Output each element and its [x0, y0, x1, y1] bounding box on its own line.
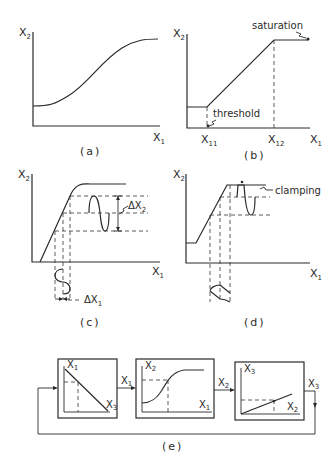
panel-b-x12-label: X12 [268, 133, 284, 148]
panel-e-block-3-y-label: X3 [244, 363, 255, 376]
panel-d-clamping-leader [260, 187, 273, 190]
panel-b-y-label: X2 [173, 27, 185, 42]
panel-c-delta-x2-arrow-top [116, 196, 120, 200]
panel-b-caption: (b) [244, 149, 266, 162]
panel-c-delta-x1-arrow-left [59, 297, 63, 301]
panel-d-caption: (d) [244, 316, 266, 329]
panel-c: ΔX2 ΔX1 X2 X1 (c) [18, 168, 164, 329]
panel-a-caption: (a) [80, 145, 101, 158]
panel-e-block-1-y-label: X1 [67, 359, 78, 372]
panel-b-threshold-dot [207, 125, 210, 128]
panel-b-saturation-leader [296, 32, 306, 38]
panel-a-x-label: X1 [153, 131, 165, 146]
panel-b-x-label: X1 [310, 133, 322, 148]
panel-e-feedback-loop [38, 388, 315, 434]
panel-b: saturation threshold X2 X11 X12 X1 (b) [173, 20, 322, 162]
panel-e: X1 X3 X2 X1 X3 X2 X1 X2 X3 (e) [38, 359, 319, 453]
panel-e-signal-1-label: X1 [121, 375, 132, 388]
panel-d-input-wave [210, 285, 230, 302]
panel-e-block-1-axes [64, 366, 110, 412]
panel-e-arrowhead-2-3 [230, 388, 235, 392]
panel-c-delta-x1-label: ΔX1 [84, 294, 102, 308]
panel-c-x-label: X1 [152, 265, 164, 280]
panel-e-feedback-arrowhead-in [53, 386, 58, 390]
panel-e-block-2-y-label: X2 [145, 360, 156, 373]
panel-d-response-curve [186, 185, 266, 243]
panel-c-delta-x1-arrow-right [63, 297, 67, 301]
panel-a-axes [33, 32, 160, 126]
panel-b-piecewise-curve [187, 40, 308, 107]
panel-c-output-wave [89, 196, 109, 231]
panel-c-delta-x2-arrow-bottom [116, 227, 120, 231]
panel-e-block-3-curve [241, 394, 292, 414]
panel-c-input-wave [55, 269, 70, 294]
panel-e-block-3-x-label: X2 [287, 401, 298, 414]
panel-e-signal-3-label: X3 [308, 378, 319, 391]
panel-e-feedback-arrowhead-down [313, 403, 317, 408]
panel-c-y-label: X2 [18, 168, 30, 183]
panel-d-output-wave [237, 185, 255, 215]
panel-d-clamping-label: clamping [275, 185, 321, 196]
panel-c-delta-x2-label: ΔX2 [128, 200, 146, 214]
panel-b-saturation-label: saturation [252, 20, 303, 31]
panel-e-block-2-x-label: X1 [199, 399, 210, 412]
panel-e-block-1-curve [65, 369, 108, 411]
panel-b-x11-label: X11 [201, 133, 217, 148]
panel-d-x-label: X1 [310, 267, 322, 282]
panel-d-clamp-dot [241, 181, 244, 184]
panel-e-signal-2-label: X2 [218, 377, 229, 390]
panel-b-saturation-dot [306, 37, 309, 40]
panel-d: clamping X2 X1 (d) [173, 168, 322, 329]
panel-c-caption: (c) [80, 316, 101, 329]
panel-b-threshold-leader [209, 120, 216, 126]
panel-a: X2 X1 (a) [19, 26, 165, 158]
panel-a-y-label: X2 [19, 26, 31, 41]
panel-d-y-label: X2 [173, 168, 185, 183]
panel-a-sigmoid-curve [33, 39, 158, 106]
panel-b-threshold-label: threshold [213, 108, 260, 119]
figure-canvas: X2 X1 (a) saturation threshold X2 X11 X1… [0, 0, 335, 464]
panel-e-block-3-dot [273, 400, 275, 402]
panel-c-axes [32, 174, 160, 262]
panel-e-block-2-curve [142, 370, 204, 403]
panel-e-caption: (e) [162, 440, 183, 453]
